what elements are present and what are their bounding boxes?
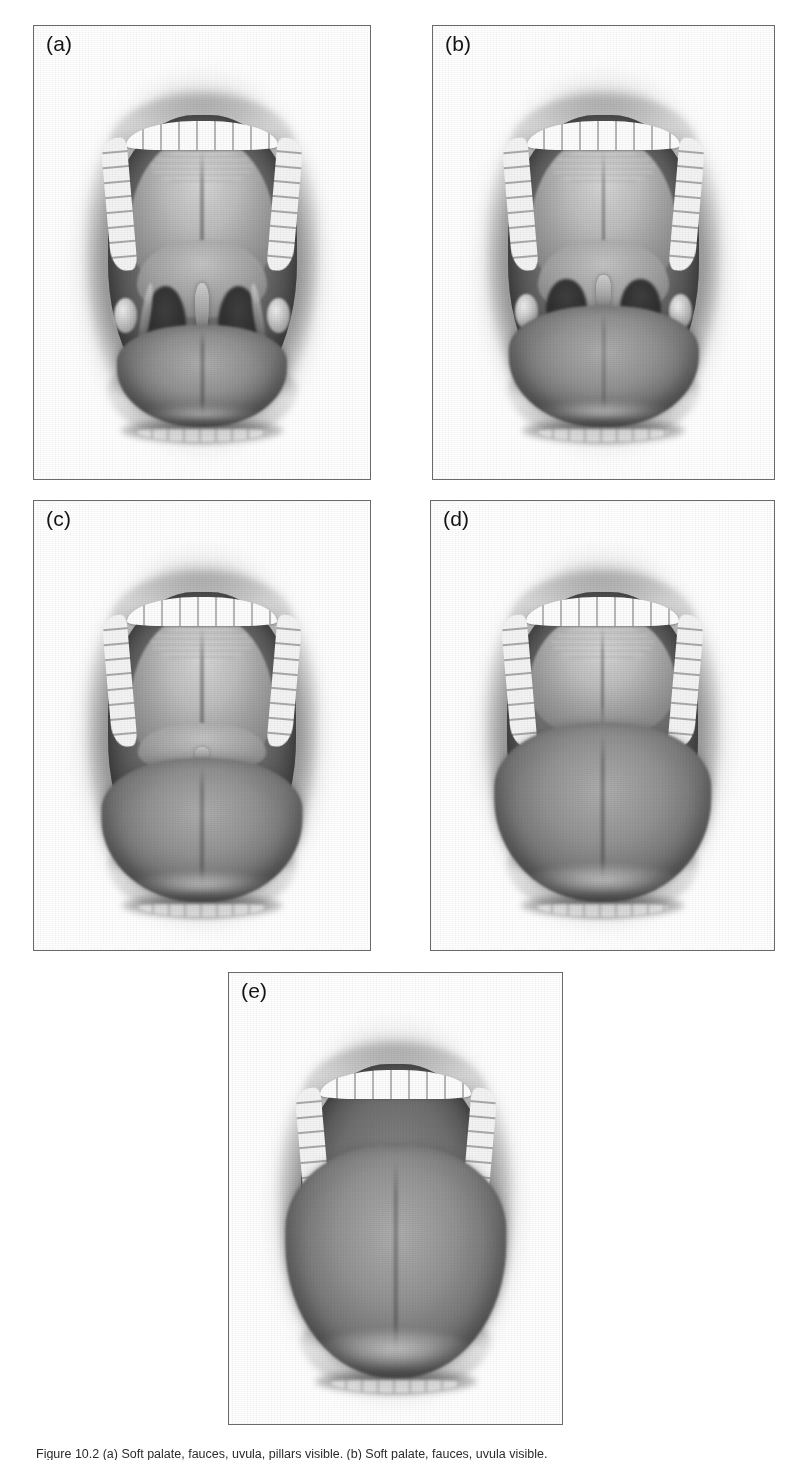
panel-b: (b) — [432, 25, 775, 480]
panel-a: (a) — [33, 25, 371, 480]
panel-e: (e) — [228, 972, 563, 1425]
panel-c-label: (c) — [46, 508, 71, 529]
panel-a-label: (a) — [46, 33, 72, 54]
tonsil-right — [267, 298, 290, 333]
mouth-illustration-e — [261, 1017, 531, 1409]
mouth-illustration-c — [68, 545, 336, 933]
mouth-illustration-a — [67, 68, 337, 458]
panel-e-label: (e) — [241, 980, 267, 1001]
panel-d: (d) — [430, 500, 775, 951]
panel-d-label: (d) — [443, 508, 469, 529]
figure-caption: Figure 10.2 (a) Soft palate, fauces, uvu… — [36, 1447, 776, 1460]
figure-sheet: (a) — [0, 0, 806, 1460]
mouth-illustration-d — [467, 545, 739, 933]
palatal-raphe — [601, 626, 604, 731]
panel-c: (c) — [33, 500, 371, 951]
panel-b-label: (b) — [445, 33, 471, 54]
mouth-illustration-b — [468, 68, 740, 458]
